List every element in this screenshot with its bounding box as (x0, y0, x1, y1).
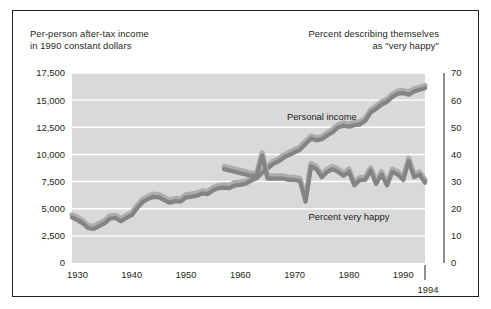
x-axis-tick-label: 1950 (176, 269, 197, 280)
y-axis-left-tick-label: 17,500 (36, 67, 65, 78)
y-axis-left-tick-label: 2,500 (42, 230, 65, 241)
x-axis-tick-label: 1970 (284, 269, 305, 280)
x-axis-ticks: 19301940195019601970198019901994 (67, 265, 438, 295)
x-axis-tick-label: 1980 (339, 269, 360, 280)
y-axis-left-tick-label: 5,000 (42, 203, 65, 214)
y-axis-left-tick-label: 7,500 (42, 176, 65, 187)
y-axis-right-tick-label: 40 (451, 149, 461, 160)
y-axis-left-ticks: 02,5005,0007,50010,00012,50015,00017,500 (36, 67, 65, 268)
y-axis-left-tick-label: 12,500 (36, 122, 65, 133)
y-axis-right-tick-label: 60 (451, 95, 461, 106)
y-axis-right-ticks: 010203040506070 (444, 67, 461, 268)
y-axis-right-tick-label: 30 (451, 176, 461, 187)
y-axis-right-tick-label: 50 (451, 122, 461, 133)
chart-plot: 02,5005,0007,50010,00012,50015,00017,500… (0, 0, 491, 309)
y-axis-right-tick-label: 10 (451, 230, 461, 241)
y-axis-right-tick-label: 20 (451, 203, 461, 214)
y-axis-right-tick-label: 70 (451, 67, 461, 78)
y-axis-left-tick-label: 15,000 (36, 95, 65, 106)
y-axis-left-tick-label: 0 (60, 257, 65, 268)
chart-figure: Per-person after-tax income in 1990 cons… (0, 0, 491, 309)
x-axis-tick-label: 1960 (230, 269, 251, 280)
x-axis-tick-label: 1940 (121, 269, 142, 280)
y-axis-right-tick-label: 0 (451, 257, 456, 268)
x-axis-tick-label: 1990 (393, 269, 414, 280)
y-axis-left-tick-label: 10,000 (36, 149, 65, 160)
series-annotation: Personal income (287, 111, 357, 122)
series-annotation: Percent very happy (309, 211, 390, 222)
x-axis-tick-label: 1930 (67, 269, 88, 280)
x-axis-end-label: 1994 (418, 284, 439, 295)
